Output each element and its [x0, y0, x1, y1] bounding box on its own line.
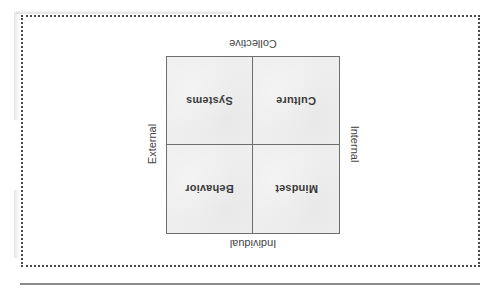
bottom-rule-divider — [20, 283, 480, 285]
quadrant-label-mindset: Mindset — [275, 183, 318, 195]
quadrant-behavior: Behavior — [167, 145, 253, 233]
axis-label-individual: Individual — [166, 238, 340, 250]
quadrant-mindset: Mindset — [253, 145, 339, 233]
axis-label-collective: Collective — [166, 38, 340, 50]
axis-label-internal: Internal — [349, 114, 361, 174]
page-edge-shadow-left — [14, 12, 20, 120]
quadrant-label-culture: Culture — [276, 95, 316, 107]
page-edge-shadow-left-lower — [14, 190, 20, 258]
axis-label-external: External — [146, 114, 158, 174]
quadrant-label-behavior: Behavior — [185, 183, 234, 195]
page-edge-shadow — [16, 10, 232, 14]
quadrant-label-systems: Systems — [186, 95, 233, 107]
quadrant-systems: Systems — [167, 57, 253, 145]
quadrant-grid: Systems Culture Behavior Mindset — [166, 56, 340, 234]
quadrant-culture: Culture — [253, 57, 339, 145]
